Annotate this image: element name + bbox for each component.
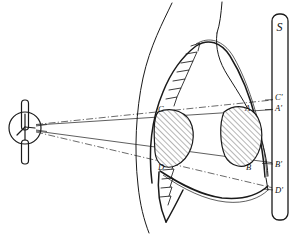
label-C-prime: C' <box>275 92 283 102</box>
label-screen-S: S <box>277 20 283 34</box>
label-B: B <box>246 162 251 172</box>
label-B-prime: B' <box>275 159 282 169</box>
figure-canvas: C D A B S C' A' B' D' <box>0 0 300 235</box>
label-A-prime: A' <box>274 103 282 113</box>
label-D: D <box>157 162 165 172</box>
label-D-prime: D' <box>274 185 283 195</box>
radiographic-localization-diagram: C D A B S C' A' B' D' <box>0 0 300 235</box>
posterior-opacity <box>221 107 262 166</box>
label-C: C <box>158 104 164 114</box>
label-A: A <box>244 103 251 113</box>
